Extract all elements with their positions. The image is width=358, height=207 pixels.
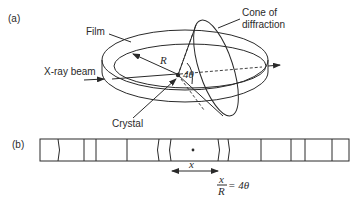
beam-line bbox=[112, 74, 177, 79]
panel-a-label: (a) bbox=[8, 13, 20, 24]
panel-b-label: (b) bbox=[12, 139, 24, 150]
beam-center-dot bbox=[192, 149, 195, 152]
film-strip bbox=[40, 139, 349, 161]
crystal-label: Crystal bbox=[112, 118, 143, 129]
formula-numerator: x bbox=[218, 173, 224, 185]
cone-label-line2: diffraction bbox=[242, 19, 285, 30]
formula-rhs: = 4θ bbox=[228, 179, 250, 191]
xray-beam-label: X-ray beam bbox=[44, 66, 96, 77]
formula: x R = 4θ bbox=[217, 173, 250, 197]
distance-label: x bbox=[188, 158, 194, 170]
film-label: Film bbox=[86, 26, 105, 37]
panel-b: (b) x x R = 4θ bbox=[12, 139, 349, 197]
beam-in-arrow bbox=[84, 79, 104, 80]
cone-label-line1: Cone of bbox=[242, 7, 277, 18]
debye-scherrer-diagram: (a) Film X-ray beam R Crystal 4θ bbox=[0, 0, 358, 207]
diffraction-lines bbox=[58, 139, 332, 161]
beam-out-arrow bbox=[268, 65, 280, 66]
cone-leader-line bbox=[218, 19, 240, 28]
formula-denominator: R bbox=[217, 185, 225, 197]
radius-arrow bbox=[133, 54, 177, 74]
radius-label: R bbox=[159, 54, 167, 66]
panel-a: (a) Film X-ray beam R Crystal 4θ bbox=[8, 7, 285, 129]
